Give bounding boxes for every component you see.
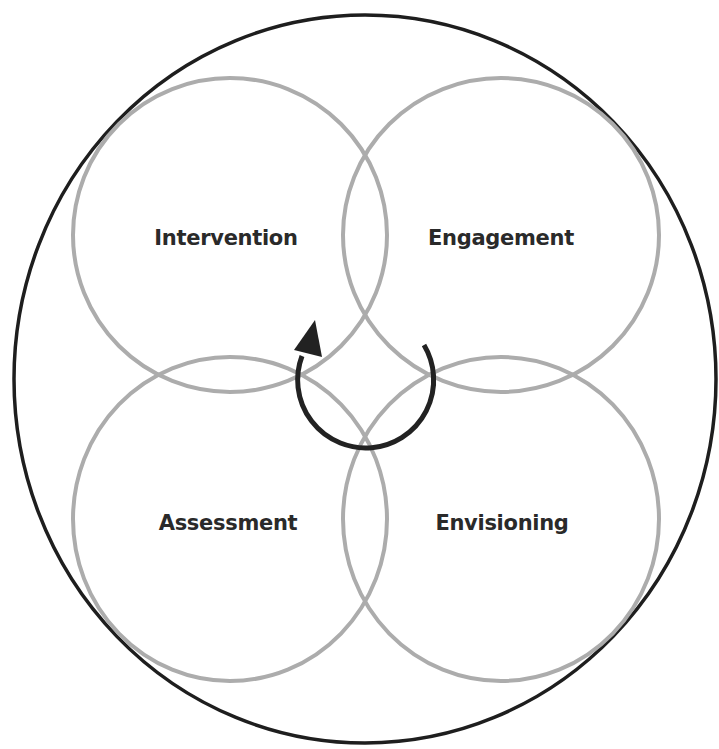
label-engagement: Engagement: [428, 226, 574, 250]
label-assessment: Assessment: [159, 511, 298, 535]
phase-circles: [73, 78, 659, 681]
cycle-diagram: Intervention Engagement Assessment Envis…: [0, 0, 719, 749]
label-envisioning: Envisioning: [435, 511, 568, 535]
label-intervention: Intervention: [154, 226, 297, 250]
